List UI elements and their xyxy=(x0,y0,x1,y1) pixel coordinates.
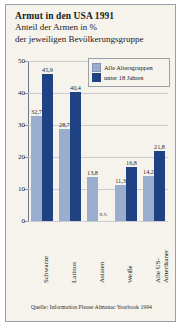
figure-root: Armut in den USA 1991 Anteil der Armen i… xyxy=(0,0,183,335)
bar-na-marker: n.v. xyxy=(99,211,107,217)
subtitle-line-2: der jeweiligen Bevölkerungsgruppe xyxy=(15,34,171,46)
bar-value-label: 16,8 xyxy=(126,159,137,166)
x-axis-category-label: Alle US- Amerikaner xyxy=(154,221,170,283)
subtitle-line-1: Anteil der Armen in % xyxy=(15,22,171,34)
x-axis-labels: SchwarzeLatinosAsiatenWeißeAlle US- Amer… xyxy=(28,221,168,299)
x-axis-category-label: Asiaten xyxy=(98,221,106,283)
legend-swatch-icon-all-ages xyxy=(92,63,101,72)
source-note: Quelle: Information Please Almanac Yearb… xyxy=(6,304,177,310)
plot-area: 01020304050 32,745,928,740,413,8n.v.11,3… xyxy=(6,57,177,227)
bar xyxy=(143,176,154,221)
bar xyxy=(154,151,165,221)
legend-item-under-18: unter 18 Jahren xyxy=(92,73,166,82)
y-axis-tick-label: 20 xyxy=(18,153,25,161)
page-title: Armut in den USA 1991 xyxy=(15,10,171,22)
y-axis-tick-label: 50 xyxy=(18,57,25,65)
x-axis-category-label: Latinos xyxy=(70,221,78,283)
bar-value-label: 13,8 xyxy=(87,169,98,176)
bar-value-label: 14,2 xyxy=(143,168,154,175)
bar xyxy=(115,185,126,221)
legend-swatch-icon-under-18 xyxy=(92,73,101,82)
bar xyxy=(126,167,137,221)
legend-label-under-18: unter 18 Jahren xyxy=(104,74,143,82)
bar-value-label: 11,3 xyxy=(115,177,126,184)
bar xyxy=(70,92,81,221)
bar-value-label: 32,7 xyxy=(31,108,42,115)
y-axis-tick-label: 0 xyxy=(22,217,26,225)
title-block: Armut in den USA 1991 Anteil der Armen i… xyxy=(15,10,171,45)
chart-card: Armut in den USA 1991 Anteil der Armen i… xyxy=(5,4,176,322)
x-axis-category-label: Schwarze xyxy=(42,221,50,283)
legend-item-all-ages: Alle Altersgruppen xyxy=(92,63,166,72)
bar xyxy=(31,116,42,221)
bar-value-label: 40,4 xyxy=(70,84,81,91)
y-axis-tick-label: 40 xyxy=(18,89,25,97)
bar-value-label: 21,8 xyxy=(154,143,165,150)
legend-label-all-ages: Alle Altersgruppen xyxy=(104,64,153,72)
bar-value-label: 28,7 xyxy=(59,121,70,128)
bar xyxy=(87,177,98,221)
bar-value-label: 45,9 xyxy=(42,66,53,73)
y-axis-tick-label: 10 xyxy=(18,185,25,193)
bar xyxy=(42,74,53,221)
y-axis-tick-label: 30 xyxy=(18,121,25,129)
bar xyxy=(59,129,70,221)
x-axis-category-label: Weiße xyxy=(126,221,134,283)
legend: Alle Altersgruppen unter 18 Jahren xyxy=(88,58,170,87)
